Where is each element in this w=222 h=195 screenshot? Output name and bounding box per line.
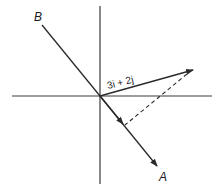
- line-b-to-origin: [42, 25, 100, 96]
- projection-dashed-line: [125, 74, 187, 125]
- label-b: B: [34, 10, 42, 24]
- label-a: A: [158, 170, 167, 184]
- vector-diagram: B A 3i + 2j: [0, 0, 222, 195]
- label-vector: 3i + 2j: [106, 74, 135, 91]
- projection-arrow: [100, 96, 123, 124]
